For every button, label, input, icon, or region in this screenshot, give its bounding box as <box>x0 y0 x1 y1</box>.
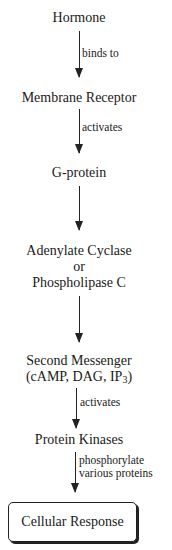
examples-text: (cAMP, DAG, IP <box>26 369 122 384</box>
arrow-down-icon <box>79 296 80 342</box>
edge-label-various-proteins: various proteins <box>79 467 153 480</box>
edge-label-phosphorylate: phosphorylate <box>79 454 144 467</box>
edge-label-activates: activates <box>82 121 122 134</box>
arrow-down-icon <box>76 388 77 428</box>
arrow-down-icon <box>75 452 76 492</box>
node-g-protein: G-protein <box>0 165 158 181</box>
arrow-down-icon <box>79 31 80 77</box>
node-second-messenger: Second Messenger <box>0 353 158 369</box>
node-membrane-receptor: Membrane Receptor <box>0 90 158 106</box>
arrow-down-icon <box>79 186 80 230</box>
node-cellular-response: Cellular Response <box>8 502 137 542</box>
node-hormone: Hormone <box>0 10 158 26</box>
edge-label-activates: activates <box>80 396 120 409</box>
examples-close: ) <box>127 369 132 384</box>
cellular-response-label: Cellular Response <box>21 514 123 530</box>
node-second-messenger-examples: (cAMP, DAG, IP3) <box>0 369 158 388</box>
node-adenylate-cyclase: Adenylate Cyclase <box>0 243 158 259</box>
node-or: or <box>0 259 158 275</box>
node-protein-kinases: Protein Kinases <box>0 432 158 448</box>
edge-label-binds-to: binds to <box>82 47 119 60</box>
arrow-down-icon <box>79 109 80 153</box>
node-phospholipase-c: Phospholipase C <box>0 275 158 291</box>
